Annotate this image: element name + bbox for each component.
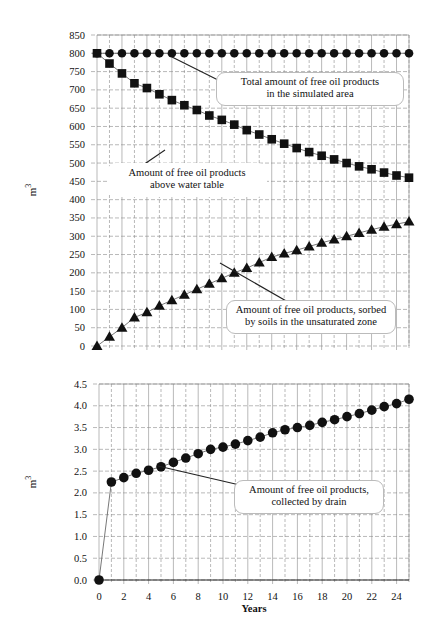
svg-text:4: 4 <box>146 591 152 602</box>
svg-text:1.0: 1.0 <box>74 531 87 542</box>
svg-text:3.0: 3.0 <box>74 444 87 455</box>
x-axis-title: Years <box>241 603 266 614</box>
callout-above-line1: Amount of free oil products <box>114 167 260 179</box>
callout-sorbed-line2: by soils in the unsaturated zone <box>233 316 389 328</box>
y-axis-title: m3 <box>24 476 38 489</box>
svg-text:14: 14 <box>267 591 278 602</box>
callout-drain-line2: collected by drain <box>241 496 377 508</box>
callout-total-line1: Total amount of free oil products <box>223 76 397 88</box>
svg-text:650: 650 <box>69 103 85 114</box>
svg-text:550: 550 <box>69 139 85 150</box>
svg-text:24: 24 <box>391 591 402 602</box>
svg-text:0.5: 0.5 <box>74 553 87 564</box>
svg-text:20: 20 <box>342 591 353 602</box>
svg-text:0: 0 <box>96 591 101 602</box>
callout-collected-by-drain: Amount of free oil products, collected b… <box>234 480 384 514</box>
svg-text:600: 600 <box>69 121 85 132</box>
svg-text:4.5: 4.5 <box>74 379 87 390</box>
callout-total-line2: in the simulated area <box>223 88 397 100</box>
svg-text:350: 350 <box>69 212 85 223</box>
svg-text:750: 750 <box>69 66 85 77</box>
svg-text:4.0: 4.0 <box>74 400 87 411</box>
y-axis-labels: 0501001502002503003504004505005506006507… <box>69 30 85 352</box>
callout-leader-lines <box>127 57 288 486</box>
svg-text:700: 700 <box>69 84 85 95</box>
callout-drain-line1: Amount of free oil products, <box>241 484 377 496</box>
svg-text:850: 850 <box>69 30 85 41</box>
svg-text:150: 150 <box>69 286 85 297</box>
callout-sorbed-line1: Amount of free oil products, sorbed <box>233 304 389 316</box>
svg-text:8: 8 <box>196 591 201 602</box>
svg-text:2.5: 2.5 <box>74 466 87 477</box>
svg-text:250: 250 <box>69 249 85 260</box>
svg-text:400: 400 <box>69 194 85 205</box>
figure: 0501001502002503003504004505005506006507… <box>0 0 435 640</box>
svg-text:18: 18 <box>317 591 328 602</box>
svg-text:500: 500 <box>69 158 85 169</box>
series-circle <box>93 49 414 58</box>
y-axis-labels: 0.00.51.01.52.02.53.03.54.04.5 <box>74 379 87 586</box>
y-axis-title: m3 <box>24 184 38 197</box>
svg-text:0.0: 0.0 <box>74 575 87 586</box>
svg-text:2.0: 2.0 <box>74 487 87 498</box>
svg-text:200: 200 <box>69 267 85 278</box>
svg-text:100: 100 <box>69 304 85 315</box>
svg-text:3.5: 3.5 <box>74 422 87 433</box>
svg-text:800: 800 <box>69 48 85 59</box>
svg-text:6: 6 <box>171 591 176 602</box>
callout-above-water-table: Amount of free oil products above water … <box>107 163 267 197</box>
svg-text:0: 0 <box>80 341 85 352</box>
svg-text:16: 16 <box>292 591 303 602</box>
callout-total-amount: Total amount of free oil products in the… <box>216 72 404 106</box>
svg-text:22: 22 <box>367 591 378 602</box>
x-axis-labels: 024681012141618202224 <box>96 591 402 602</box>
svg-text:12: 12 <box>243 591 254 602</box>
svg-text:300: 300 <box>69 231 85 242</box>
callout-sorbed-by-soils: Amount of free oil products, sorbed by s… <box>226 300 396 334</box>
callout-above-line2: above water table <box>114 179 260 191</box>
svg-text:450: 450 <box>69 176 85 187</box>
svg-text:10: 10 <box>218 591 229 602</box>
svg-text:2: 2 <box>121 591 126 602</box>
svg-text:1.5: 1.5 <box>74 509 87 520</box>
svg-text:50: 50 <box>75 322 86 333</box>
